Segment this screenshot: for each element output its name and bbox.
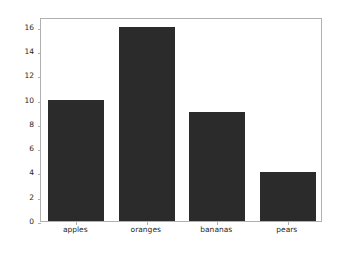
y-tick-label: 12: [3, 72, 34, 80]
y-tick-mark: [38, 126, 42, 127]
y-tick-label: 2: [3, 194, 34, 202]
y-tick-label: 0: [3, 218, 34, 226]
x-tick-mark: [147, 221, 148, 225]
x-tick-label-pears: pears: [247, 226, 327, 234]
bar-bananas: [189, 112, 245, 221]
figure: 0246810121416 applesorangesbananaspears: [0, 0, 342, 262]
y-tick-mark: [38, 102, 42, 103]
y-tick-mark: [38, 150, 42, 151]
bar-apples: [48, 100, 104, 221]
y-tick-mark: [38, 199, 42, 200]
y-tick-label: 14: [3, 48, 34, 56]
y-tick-mark: [38, 29, 42, 30]
y-tick-label: 8: [3, 121, 34, 129]
x-tick-mark: [288, 221, 289, 225]
y-tick-label: 4: [3, 169, 34, 177]
y-tick-mark: [38, 223, 42, 224]
y-tick-label: 10: [3, 97, 34, 105]
bar-oranges: [119, 27, 175, 221]
y-tick-label: 6: [3, 145, 34, 153]
x-tick-label-apples: apples: [35, 226, 115, 234]
plot-area: [41, 19, 321, 221]
y-tick-label: 16: [3, 24, 34, 32]
bar-pears: [260, 172, 316, 221]
x-tick-mark: [76, 221, 77, 225]
y-tick-mark: [38, 174, 42, 175]
x-tick-mark: [217, 221, 218, 225]
x-tick-label-bananas: bananas: [176, 226, 256, 234]
x-tick-label-oranges: oranges: [106, 226, 186, 234]
plot-axes: [40, 18, 322, 222]
y-tick-mark: [38, 53, 42, 54]
y-tick-mark: [38, 77, 42, 78]
